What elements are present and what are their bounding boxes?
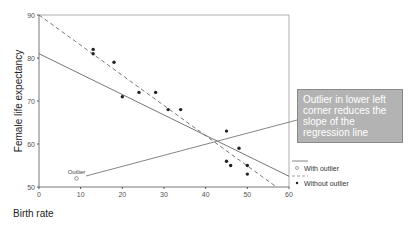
y-tick-label: 90 [27,12,35,19]
x-tick-label: 10 [77,191,85,198]
outlier-label: Outlier [68,169,86,175]
outlier-point: Outlier [68,169,86,180]
x-tick-label: 0 [37,191,41,198]
data-point [246,164,249,167]
annotation-box: Outlier in lower left corner reduces the… [297,89,403,143]
legend: With outlierWithout outlier [292,161,349,187]
data-point [179,108,182,111]
y-axis-label: Female life expectancy [13,50,24,152]
legend-label-without-outlier: Without outlier [304,180,349,187]
plot-frame [39,15,289,187]
data-points [91,48,249,176]
data-point [166,108,169,111]
x-tick-label: 60 [285,191,293,198]
regression-line-without-outlier [39,15,277,187]
legend-label-with-outlier: With outlier [304,165,340,172]
data-point [154,91,157,94]
data-point [246,172,249,175]
x-axis-label: Birth rate [13,208,54,219]
regression-lines [39,15,289,187]
annotation-text: Outlier in lower left corner reduces the… [303,94,386,138]
data-point [225,129,228,132]
regression-line-with-outlier [39,54,289,177]
x-tick-label: 30 [160,191,168,198]
x-tick-label: 50 [243,191,251,198]
legend-open-circle-icon [296,167,299,170]
data-point [237,147,240,150]
data-point [112,61,115,64]
data-point [225,160,228,163]
legend-filled-circle-icon [296,182,298,184]
data-point [229,164,232,167]
data-point [121,95,124,98]
outlier-marker [75,177,79,181]
data-point [137,91,140,94]
data-point [91,52,94,55]
data-point [91,48,94,51]
y-tick-label: 60 [27,141,35,148]
x-tick-label: 40 [202,191,210,198]
y-tick-label: 70 [27,98,35,105]
y-tick-label: 80 [27,55,35,62]
x-tick-label: 20 [118,191,126,198]
y-tick-label: 50 [27,184,35,191]
